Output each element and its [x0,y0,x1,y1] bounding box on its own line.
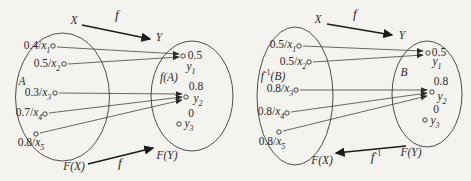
image-set-label: f(A) [160,72,178,84]
mapping-arrow [68,57,179,64]
subscript: 3 [190,124,194,133]
subscript: 1 [46,46,50,55]
mapping-arrow [303,46,423,51]
source-element-label: 0.5/x2 [34,58,61,70]
subscript: 2 [199,99,203,108]
mapping-arrow [283,96,427,131]
element-point-x3 [294,88,298,92]
superscript: -1 [375,149,382,158]
codomain-label: Y [399,30,405,42]
element-point-x2 [307,60,311,64]
target-element-label: y2 [437,91,446,103]
target-element-label: y3 [430,115,439,127]
subscript: 1 [292,45,296,54]
element-point-y2 [184,95,188,99]
grade-value: 0.5/ [34,57,52,69]
subscript: 3 [289,89,293,98]
power-map-label: f [118,156,122,170]
grade-value: 0.7/ [16,106,34,118]
source-element-label: 0.5/x1 [270,39,297,51]
grade-value: 0.5/ [270,38,288,50]
subscript: 4 [38,113,42,122]
function-arrow-top-left [82,25,150,39]
subscript: 3 [47,93,51,102]
argument: (B) [271,70,286,82]
source-element-label: 0.8/x4 [258,106,285,118]
subscript: 2 [443,97,447,106]
power-codomain-label: F(Y) [156,150,177,162]
mapping-arrow [59,93,182,94]
argument: (A) [163,71,178,83]
subscript: 5 [281,142,285,151]
grade-value: 0.8/ [259,135,277,147]
grade-value: 0.3/ [25,86,43,98]
target-element-label: y3 [184,118,193,130]
grade-value: 0.4/ [24,39,42,51]
subscript: 4 [280,112,284,121]
subscript: 1 [192,67,196,76]
mapping-arrow [49,97,182,113]
target-element-label: y2 [193,93,202,105]
element-point-y1 [426,51,430,55]
subscript: 2 [302,62,306,71]
set-ellipse-right-codomain [392,41,462,147]
membership-value: 0.8 [189,81,203,93]
preimage-set-label: f-1(B) [261,71,286,83]
fuzzy-mapping-diagrams: X f Y A 0.4/x1 0.5/x2 0.3/x3 0.7/x4 0.8/… [0,0,471,181]
grade-value: 0.8/ [258,105,276,117]
source-element-label: 0.7/x4 [16,107,43,119]
source-element-label: 0.4/x1 [24,40,51,52]
domain-label: X [70,15,77,27]
codomain-label: Y [156,32,162,44]
element-point-y1 [181,54,185,58]
element-point-y2 [430,90,434,94]
grade-value: 0.5/ [280,55,298,67]
element-point-y3 [423,118,427,122]
element-point-x1 [51,44,55,48]
mapping-arrow [291,93,427,112]
inverse-map-label: f-1 [371,150,381,164]
element-point-x2 [62,62,66,66]
subscript: 5 [40,143,44,152]
element-point-x4 [43,112,47,116]
source-element-label: 0.5/x2 [280,56,307,68]
element-point-y3 [177,122,181,126]
membership-value: 0.8 [434,76,448,88]
grade-value: 0.8/ [18,136,36,148]
set-label: B [400,67,407,79]
target-element-label: y1 [186,61,195,73]
power-codomain-label: F(Y) [400,147,421,159]
domain-label: X [314,14,321,26]
power-domain-label: F(X) [311,155,333,167]
subscript: 1 [438,62,442,71]
source-element-label: 0.8/x5 [18,137,45,149]
source-element-label: 0.3/x3 [25,87,52,99]
mapping-arrow [57,47,179,54]
element-point-x1 [297,44,301,48]
grade-value: 0.8/ [267,82,285,94]
source-element-label: 0.8/x5 [259,136,286,148]
element-point-x3 [53,91,57,95]
map-label: f [353,7,357,21]
superscript: -1 [264,68,271,77]
element-point-x4 [285,111,289,115]
element-point-x5 [277,130,281,134]
mapping-arrow [313,55,423,62]
subscript: 3 [436,121,440,130]
map-label: f [115,8,119,22]
power-domain-label: F(X) [63,161,85,173]
subscript: 2 [56,64,60,73]
mapping-arrow [40,100,182,133]
source-element-label: 0.8/x3 [267,83,294,95]
target-element-label: y1 [432,56,441,68]
function-arrow-top-right [327,24,392,35]
